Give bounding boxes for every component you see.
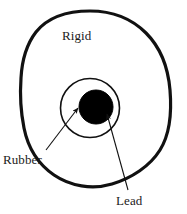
lead-leader-line <box>107 114 128 190</box>
label-lead: Lead <box>116 194 142 207</box>
label-rigid: Rigid <box>62 29 91 42</box>
diagram-vector-layer <box>0 0 187 214</box>
diagram-canvas: Rigid Rubber Lead <box>0 0 187 214</box>
label-rubber: Rubber <box>3 153 42 166</box>
